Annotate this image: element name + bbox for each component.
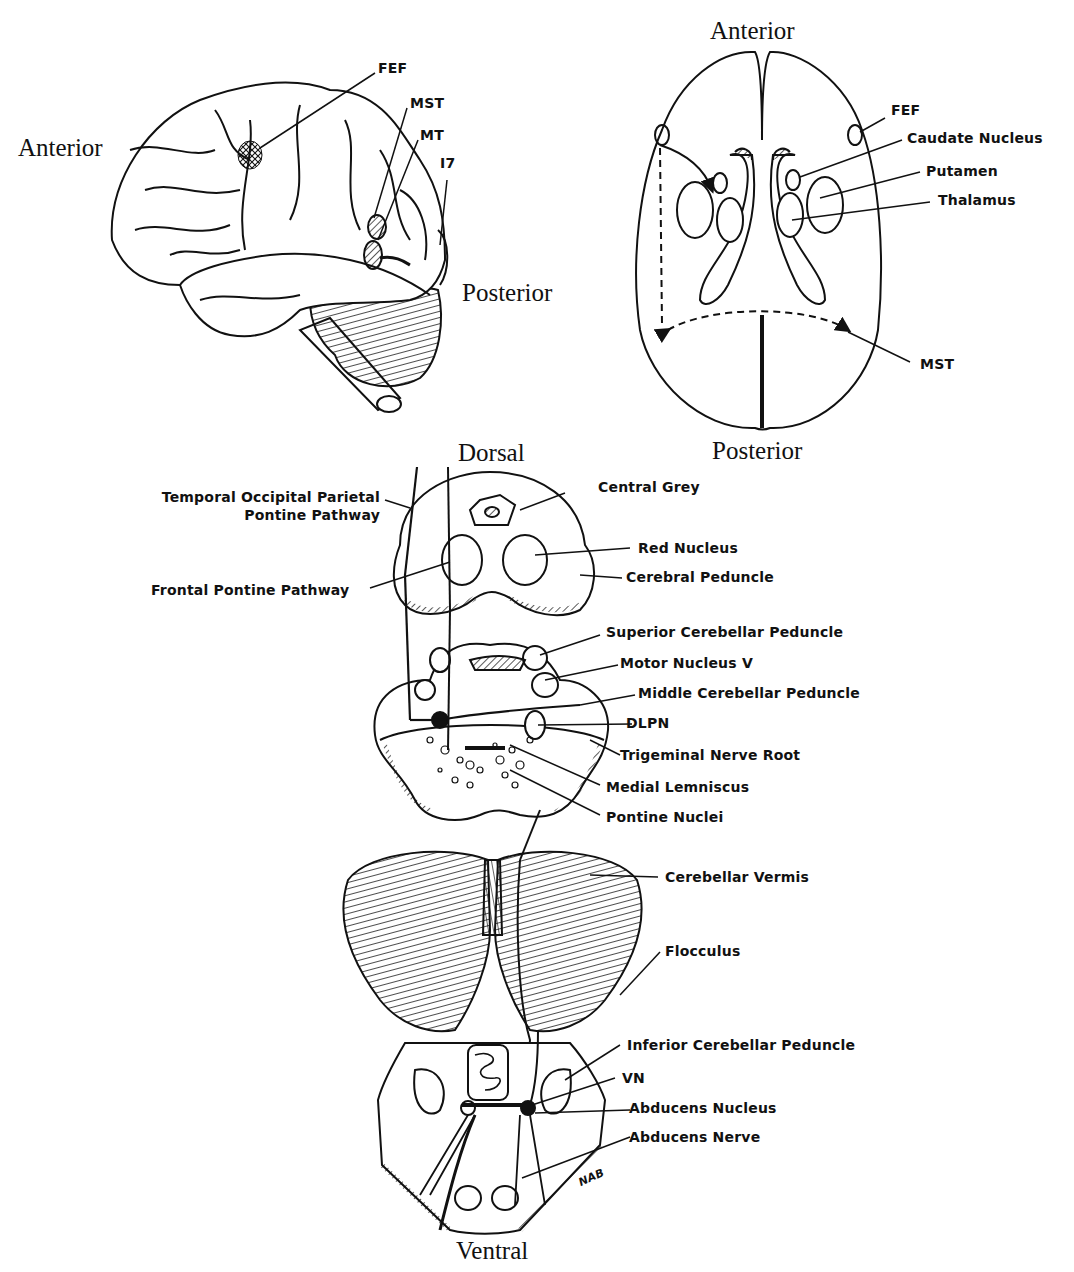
frontal-pontine-pathway-label: Frontal Pontine Pathway bbox=[151, 583, 349, 597]
lateral-area17-label: I7 bbox=[440, 156, 455, 170]
inferior-cerebellar-peduncle-label: Inferior Cerebellar Peduncle bbox=[627, 1038, 855, 1052]
temporal-pathway-line2: Pontine Pathway bbox=[148, 508, 380, 522]
axial-anterior-label: Anterior bbox=[710, 18, 795, 43]
vn-label: VN bbox=[622, 1071, 645, 1085]
middle-cerebellar-peduncle-label: Middle Cerebellar Peduncle bbox=[638, 686, 860, 700]
axial-caudate-label: Caudate Nucleus bbox=[907, 131, 1043, 145]
lateral-mt-label: MT bbox=[420, 128, 444, 142]
anatomy-illustration bbox=[0, 0, 1074, 1272]
superior-cerebellar-peduncle-label: Superior Cerebellar Peduncle bbox=[606, 625, 843, 639]
pons-section bbox=[374, 575, 635, 860]
medial-lemniscus-label: Medial Lemniscus bbox=[606, 780, 749, 794]
red-nucleus-label: Red Nucleus bbox=[638, 541, 738, 555]
central-grey-label: Central Grey bbox=[598, 480, 700, 494]
lateral-brain bbox=[112, 73, 448, 412]
temporal-pathway-line1: Temporal Occipital Parietal bbox=[148, 490, 380, 504]
pontine-nuclei-label: Pontine Nuclei bbox=[606, 810, 724, 824]
motor-nucleus-v-label: Motor Nucleus V bbox=[620, 656, 753, 670]
lateral-fef-label: FEF bbox=[378, 61, 407, 75]
ventral-label: Ventral bbox=[456, 1238, 528, 1263]
dlpn-label: DLPN bbox=[626, 716, 669, 730]
axial-thalamus-label: Thalamus bbox=[938, 193, 1016, 207]
dorsal-label: Dorsal bbox=[458, 440, 525, 465]
lateral-anterior-label: Anterior bbox=[18, 135, 103, 160]
trigeminal-nerve-root-label: Trigeminal Nerve Root bbox=[620, 748, 800, 762]
cerebellar-vermis-label: Cerebellar Vermis bbox=[665, 870, 809, 884]
axial-fef-label: FEF bbox=[891, 103, 920, 117]
axial-putamen-label: Putamen bbox=[926, 164, 998, 178]
lateral-mst-label: MST bbox=[410, 96, 444, 110]
cerebral-peduncle-label: Cerebral Peduncle bbox=[626, 570, 774, 584]
flocculus-label: Flocculus bbox=[665, 944, 740, 958]
axial-brain bbox=[636, 52, 930, 430]
axial-posterior-label: Posterior bbox=[712, 438, 802, 463]
temporal-occipital-parietal-label: Temporal Occipital Parietal Pontine Path… bbox=[148, 490, 380, 522]
axial-mst-label: MST bbox=[920, 357, 954, 371]
medulla-section bbox=[378, 1030, 630, 1234]
abducens-nucleus-label: Abducens Nucleus bbox=[629, 1101, 777, 1115]
lateral-posterior-label: Posterior bbox=[462, 280, 552, 305]
abducens-nerve-label: Abducens Nerve bbox=[629, 1130, 760, 1144]
midbrain-section bbox=[370, 467, 630, 615]
